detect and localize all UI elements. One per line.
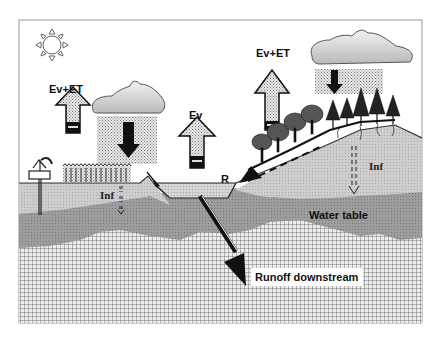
- rain-right: [315, 69, 383, 94]
- label-inf-left: Inf: [100, 189, 114, 201]
- label-inf-right: Inf: [369, 160, 383, 172]
- label-water-table: Water table: [309, 209, 368, 221]
- label-runoff-r: R: [221, 173, 229, 185]
- label-evet-right: Ev+ET: [256, 47, 290, 59]
- hydrology-diagram: Ev+ET Ev Ev+ET R Inf Inf Water table Run…: [0, 0, 437, 338]
- label-ev-center: Ev: [189, 109, 203, 121]
- crops: [63, 164, 131, 182]
- sun-icon: [36, 29, 68, 61]
- label-evet-left: Ev+ET: [49, 83, 83, 95]
- label-runoff-downstream: Runoff downstream: [255, 271, 358, 283]
